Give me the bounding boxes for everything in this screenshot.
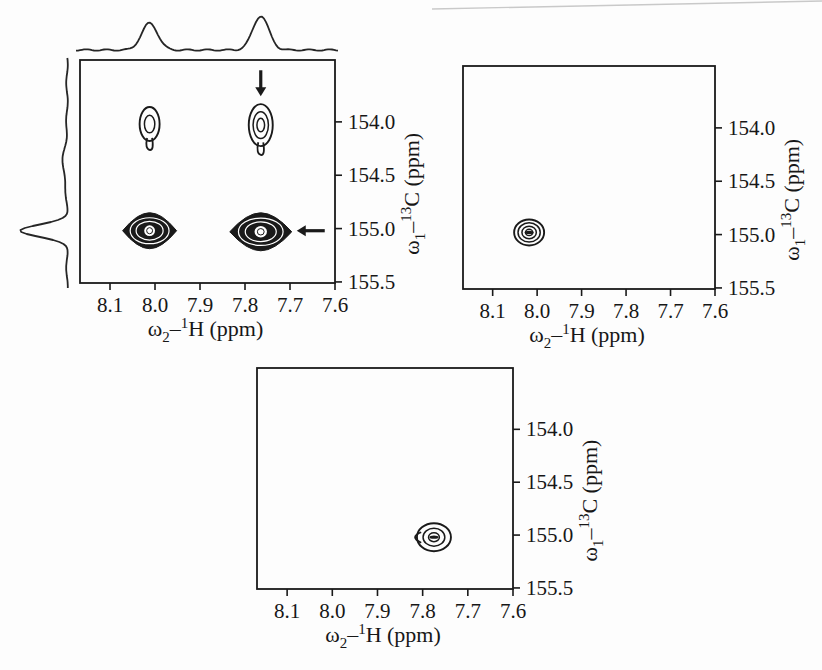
contour-peak-open <box>144 115 154 133</box>
panel-top-right: 8.18.07.97.87.77.6154.0154.5155.0155.5ω2… <box>463 66 808 351</box>
x-tick-label: 7.9 <box>364 599 390 623</box>
plot-frame <box>463 66 715 289</box>
y-tick-label: 155.5 <box>728 276 775 300</box>
left-arrow-head <box>297 225 306 236</box>
x-tick-label: 7.8 <box>410 599 436 623</box>
y-tick-label: 155.0 <box>728 223 775 247</box>
x-tick-label: 7.6 <box>500 599 526 623</box>
top-projection-trace <box>76 17 338 51</box>
x-tick-label: 8.0 <box>142 293 168 317</box>
x-tick-label: 7.7 <box>277 293 303 317</box>
panel-bottom-center: 8.18.07.97.87.77.6154.0154.5155.0155.5ω2… <box>257 368 606 651</box>
x-tick-label: 7.6 <box>702 299 728 323</box>
panel-top-left: 8.18.07.97.87.77.6154.0154.5155.0155.5ω2… <box>21 17 429 345</box>
contour-center-hole <box>255 226 267 237</box>
contour-center-hole <box>144 225 155 236</box>
x-tick-label: 7.7 <box>657 299 683 323</box>
y-tick-label: 155.5 <box>348 270 395 294</box>
contour-tail <box>146 138 152 150</box>
scan-artifact-line <box>432 1 822 9</box>
x-axis-label: ω2–1H (ppm) <box>325 621 441 652</box>
nmr-figure-canvas: 8.18.07.97.87.77.6154.0154.5155.0155.5ω2… <box>0 0 822 670</box>
x-tick-label: 7.7 <box>455 599 481 623</box>
x-axis-label: ω2–1H (ppm) <box>529 321 645 352</box>
x-tick-label: 7.6 <box>322 293 348 317</box>
y-tick-label: 154.0 <box>728 116 775 140</box>
y-tick-label: 155.0 <box>348 217 395 241</box>
contour-center-dash <box>525 231 534 234</box>
y-tick-label: 154.0 <box>526 417 573 441</box>
y-tick-label: 154.5 <box>728 169 775 193</box>
y-tick-label: 155.0 <box>526 523 573 547</box>
contour-center-dash <box>429 536 438 539</box>
contour-tail <box>415 532 421 543</box>
contour-peak-open <box>140 107 160 141</box>
nmr-figure: 8.18.07.97.87.77.6154.0154.5155.0155.5ω2… <box>0 0 822 670</box>
x-tick-label: 8.1 <box>97 293 123 317</box>
plot-frame <box>257 368 513 589</box>
x-tick-label: 7.8 <box>613 299 639 323</box>
x-axis-label: ω2–1H (ppm) <box>148 315 264 346</box>
down-arrow-head <box>255 87 266 96</box>
contour-peak-open <box>253 112 268 139</box>
left-projection-trace <box>21 58 68 288</box>
plot-frame <box>80 60 335 283</box>
x-tick-label: 7.8 <box>232 293 258 317</box>
y-tick-label: 154.5 <box>348 163 395 187</box>
y-axis-label: ω1–13C (ppm) <box>576 440 607 562</box>
x-tick-label: 8.1 <box>480 299 506 323</box>
x-tick-label: 8.0 <box>319 599 345 623</box>
contour-peak-open <box>257 118 265 131</box>
x-tick-label: 8.0 <box>524 299 550 323</box>
x-tick-label: 8.1 <box>274 599 300 623</box>
y-axis-label: ω1–13C (ppm) <box>778 139 809 261</box>
contour-tail <box>257 142 263 155</box>
x-tick-label: 7.9 <box>568 299 594 323</box>
y-axis-label: ω1–13C (ppm) <box>398 133 429 255</box>
y-tick-label: 154.5 <box>526 470 573 494</box>
y-tick-label: 155.5 <box>526 576 573 600</box>
y-tick-label: 154.0 <box>348 110 395 134</box>
x-tick-label: 7.9 <box>187 293 213 317</box>
